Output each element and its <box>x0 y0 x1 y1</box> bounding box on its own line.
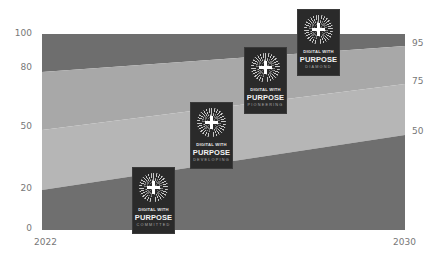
left-y-tick-100: 100 <box>15 28 32 38</box>
right-y-tick-75: 75 <box>412 76 423 86</box>
badge-diamond: DIGITAL WITH PURPOSE DIAMOND <box>298 10 339 75</box>
badge-line2: PURPOSE <box>245 93 286 102</box>
left-y-tick-0: 0 <box>26 223 32 233</box>
badge-level: PIONEERING <box>245 103 286 107</box>
right-y-tick-95: 95 <box>412 38 423 48</box>
plus-icon <box>146 180 161 195</box>
badge-line1: DIGITAL WITH <box>245 87 286 92</box>
left-y-tick-80: 80 <box>21 62 32 72</box>
badge-developing: DIGITAL WITH PURPOSE DEVELOPING <box>191 103 232 168</box>
badge-line2: PURPOSE <box>298 55 339 64</box>
left-y-tick-20: 20 <box>21 183 32 193</box>
badge-level: DEVELOPING <box>191 158 232 162</box>
badge-line1: DIGITAL WITH <box>133 207 174 212</box>
x-tick-2022: 2022 <box>34 237 57 247</box>
plus-icon <box>311 22 326 37</box>
badge-level: DIAMOND <box>298 65 339 69</box>
left-y-tick-50: 50 <box>21 121 32 131</box>
badge-level: COMMITTED <box>133 223 174 227</box>
badge-line2: PURPOSE <box>191 148 232 157</box>
stacked-area-chart: 100 80 50 20 0 95 75 50 2022 2030 DIGITA… <box>0 0 442 261</box>
plus-icon <box>204 115 219 130</box>
badge-line2: PURPOSE <box>133 213 174 222</box>
right-y-tick-50: 50 <box>412 126 423 136</box>
badge-line1: DIGITAL WITH <box>298 49 339 54</box>
x-tick-2030: 2030 <box>393 237 416 247</box>
plus-icon <box>258 60 273 75</box>
badge-committed: DIGITAL WITH PURPOSE COMMITTED <box>133 168 174 233</box>
badge-line1: DIGITAL WITH <box>191 142 232 147</box>
badge-pioneering: DIGITAL WITH PURPOSE PIONEERING <box>245 48 286 113</box>
